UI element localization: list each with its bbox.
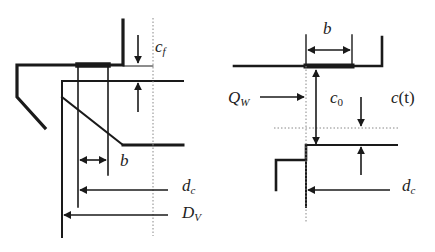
slope-line — [62, 97, 183, 145]
label-cf: cf — [155, 38, 166, 57]
label-b-left: b — [120, 152, 129, 169]
right-dimension-arrows — [260, 50, 390, 190]
label-c0: c0 — [330, 89, 343, 108]
label-ct: c(t) — [391, 89, 415, 106]
label-b-right: b — [323, 20, 332, 37]
label-Dv: DV — [182, 204, 201, 223]
upper-wall-line — [234, 37, 382, 66]
label-Qw: QW — [228, 89, 249, 108]
left-dimension-arrows — [64, 35, 168, 215]
label-dc-left: dc — [182, 177, 195, 196]
label-dc-right: dc — [402, 177, 415, 196]
outer-casing-line — [17, 20, 123, 128]
diagram-canvas — [0, 0, 435, 252]
lower-step-line — [276, 145, 306, 190]
